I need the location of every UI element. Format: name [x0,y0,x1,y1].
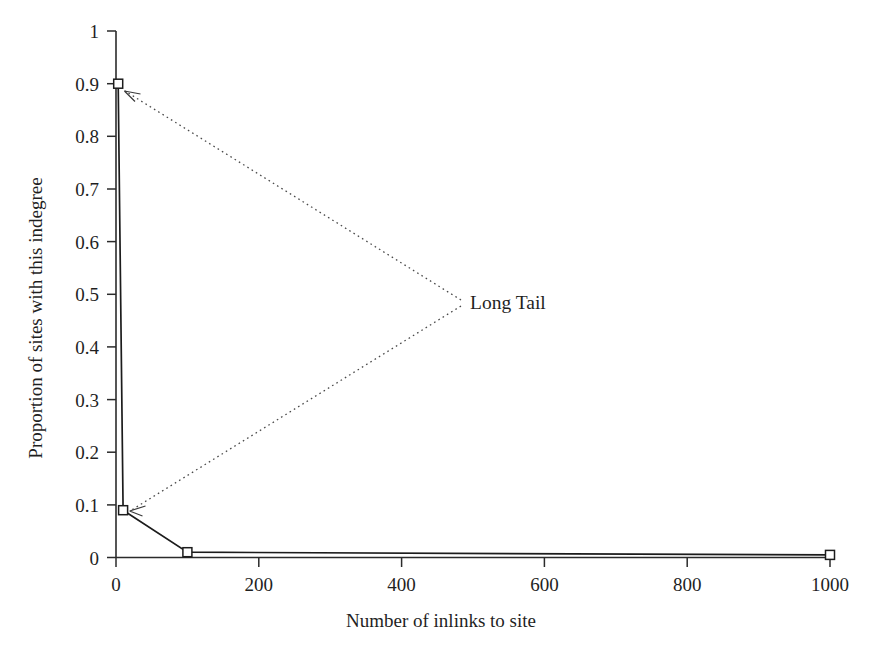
y-tick-label-0-5: 0.5 [75,284,99,305]
y-tick-label-0-6: 0.6 [75,232,99,253]
data-point-marker [114,79,123,88]
annotation-long-tail: Long Tail [470,292,546,313]
y-tick-label-0: 0 [90,548,100,569]
y-tick-label-1: 1 [90,21,100,42]
x-axis-tick-labels: 0 200 400 600 800 1000 [111,574,849,595]
x-axis-title: Number of inlinks to site [346,610,536,631]
y-tick-label-0-7: 0.7 [75,179,99,200]
data-point-markers [114,79,835,559]
x-tick-label-0: 0 [111,574,121,595]
data-point-marker [119,506,128,515]
y-tick-label-0-2: 0.2 [75,442,99,463]
y-tick-label-0-1: 0.1 [75,495,99,516]
x-tick-label-600: 600 [530,574,559,595]
data-point-marker [183,548,192,557]
chart-figure: 1 0.9 0.8 0.7 0.6 0.5 0.4 0.3 0.2 0.1 0 … [0,0,872,655]
x-axis-ticks [116,558,830,568]
y-tick-label-0-8: 0.8 [75,126,99,147]
x-tick-label-400: 400 [387,574,416,595]
x-tick-label-200: 200 [245,574,274,595]
y-tick-label-0-9: 0.9 [75,74,99,95]
y-axis-tick-labels: 1 0.9 0.8 0.7 0.6 0.5 0.4 0.3 0.2 0.1 0 [75,21,99,569]
y-tick-label-0-4: 0.4 [75,337,99,358]
chart-plot-area: 1 0.9 0.8 0.7 0.6 0.5 0.4 0.3 0.2 0.1 0 … [0,0,872,655]
y-axis-ticks [107,31,116,558]
long-tail-arrowheads [124,91,145,516]
arrowhead-lower [130,506,146,516]
long-tail-leader-lines [125,91,461,511]
leader-line-lower [130,306,461,511]
data-series-line [118,85,830,555]
x-tick-label-800: 800 [673,574,702,595]
data-point-marker [826,550,835,559]
x-tick-label-1000: 1000 [811,574,849,595]
y-tick-label-0-3: 0.3 [75,390,99,411]
y-axis-title: Proportion of sites with this indegree [25,177,46,458]
leader-line-upper [125,91,461,300]
